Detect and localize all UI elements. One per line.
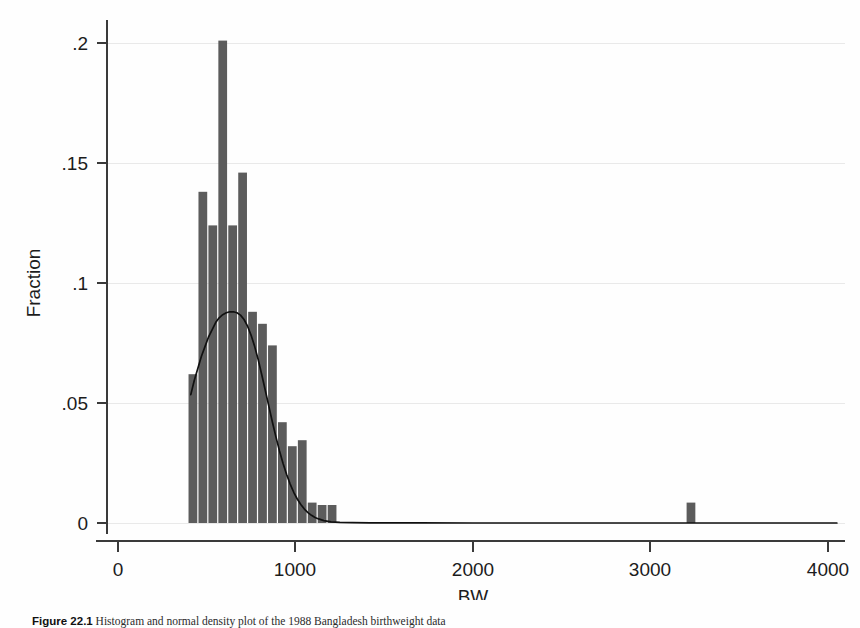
figure-caption-label: Figure 22.1 (32, 615, 93, 627)
gridlines (107, 43, 845, 523)
x-tick-label-4000: 4000 (807, 559, 849, 580)
x-axis-ticks (118, 541, 828, 552)
histogram-bar (248, 312, 257, 523)
x-axis-tick-labels: 0 1000 2000 3000 4000 (113, 559, 849, 580)
histogram-bar (687, 503, 696, 523)
histogram-bar (198, 192, 207, 523)
y-tick-label-0: 0 (77, 513, 88, 534)
y-tick-label-0.1: .1 (72, 273, 88, 294)
histogram-bar (208, 225, 217, 523)
figure-caption-text: Histogram and normal density plot of the… (96, 615, 446, 627)
x-tick-label-0: 0 (113, 559, 124, 580)
x-tick-label-3000: 3000 (629, 559, 671, 580)
histogram-bar (228, 225, 237, 523)
histogram-bar (288, 446, 297, 523)
y-tick-label-0.2: .2 (72, 33, 88, 54)
y-axis-ticks (97, 43, 107, 523)
x-axis-title: BW (458, 586, 489, 600)
histogram-bar (328, 505, 337, 523)
histogram-chart: .2 .15 .1 .05 0 0 1000 2000 3000 4000 Fr… (0, 0, 860, 600)
histogram-bars (189, 41, 696, 523)
y-tick-label-0.05: .05 (62, 393, 88, 414)
normal-density-curve (191, 312, 837, 523)
y-axis-tick-labels: .2 .15 .1 .05 0 (62, 33, 88, 534)
x-tick-label-2000: 2000 (452, 559, 494, 580)
x-tick-label-1000: 1000 (274, 559, 316, 580)
histogram-bar (218, 41, 227, 523)
figure-container: .2 .15 .1 .05 0 0 1000 2000 3000 4000 Fr… (0, 0, 860, 628)
y-axis-title: Fraction (23, 249, 44, 318)
y-tick-label-0.15: .15 (62, 153, 88, 174)
histogram-bar (189, 374, 198, 523)
histogram-bar (258, 324, 267, 523)
figure-caption: Figure 22.1 Histogram and normal density… (32, 614, 832, 628)
histogram-bar (238, 173, 247, 523)
